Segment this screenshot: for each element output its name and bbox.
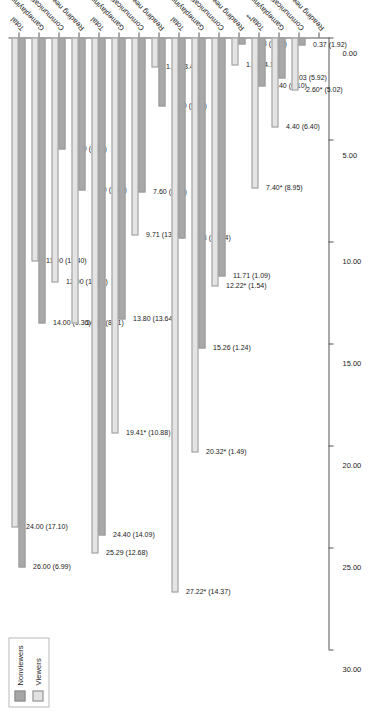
bar-value-label: 11.71 (1.09) xyxy=(233,271,270,279)
category-axis-tick xyxy=(118,32,119,37)
bar-nonviewers xyxy=(298,37,305,45)
bar-nonviewers xyxy=(198,37,205,348)
bar-value-label: 20.32* (1.49) xyxy=(205,447,245,455)
bar-viewers xyxy=(231,37,238,65)
bar-viewers xyxy=(271,37,278,127)
legend-swatch-icon xyxy=(14,690,25,701)
legend-label-viewers: Viewers xyxy=(33,658,42,685)
category-axis-tick xyxy=(98,32,99,37)
bar-nonviewers xyxy=(98,37,105,535)
bar-viewers xyxy=(11,37,18,527)
bar-viewers xyxy=(211,37,218,286)
bar-nonviewers xyxy=(158,37,165,106)
bar-viewers xyxy=(171,37,178,592)
value-axis-tick-label: 15.00 xyxy=(342,358,361,367)
value-axis-tick xyxy=(328,241,333,242)
bar-value-label: 25.29 (12.68) xyxy=(105,548,147,556)
category-axis-tick xyxy=(238,32,239,37)
category-axis-label: Total xyxy=(88,15,106,33)
value-axis-tick-label: 5.00 xyxy=(342,150,357,159)
bar-viewers xyxy=(191,37,198,452)
bar-nonviewers xyxy=(58,37,65,149)
bar-nonviewers xyxy=(78,37,85,190)
category-axis-tick xyxy=(78,32,79,37)
legend-swatch-icon xyxy=(32,690,43,701)
bar-viewers xyxy=(291,37,298,90)
category-axis-tick xyxy=(178,32,179,37)
bar-value-label: 19.41* (10.88) xyxy=(125,428,169,436)
bar-chart-figure: Nonviewers Viewers 30.0025.0020.0015.001… xyxy=(0,0,369,713)
bar-nonviewers xyxy=(258,37,265,86)
category-axis-tick xyxy=(38,32,39,37)
bar-nonviewers xyxy=(18,37,25,567)
legend-item-viewers: Viewers xyxy=(32,645,43,701)
bar-value-label: 24.00 (17.10) xyxy=(25,522,67,530)
category-axis-tick xyxy=(278,32,279,37)
value-axis-tick-label: 10.00 xyxy=(342,256,361,265)
value-axis-tick-label: 20.00 xyxy=(342,460,361,469)
value-axis-tick-label: 30.00 xyxy=(342,664,361,673)
value-axis-tick xyxy=(328,139,333,140)
bar-value-label: 26.00 (6.99) xyxy=(33,563,71,571)
bar-viewers xyxy=(51,37,58,282)
bar-value-label: 12.22* (1.54) xyxy=(225,282,265,290)
value-axis-tick-label: 25.00 xyxy=(342,562,361,571)
bar-viewers xyxy=(31,37,38,261)
category-axis-tick xyxy=(18,32,19,37)
bar-nonviewers xyxy=(118,37,125,319)
bar-nonviewers xyxy=(178,37,185,238)
value-axis-tick-label: 0.00 xyxy=(342,48,357,57)
bar-nonviewers xyxy=(218,37,225,276)
legend-item-nonviewers: Nonviewers xyxy=(14,645,25,701)
category-axis-label: Total xyxy=(168,15,186,33)
legend-label-nonviewers: Nonviewers xyxy=(15,645,24,685)
bar-value-label: 4.40 (6.40) xyxy=(285,122,319,130)
category-axis-tick xyxy=(58,32,59,37)
bar-nonviewers xyxy=(238,37,245,44)
category-axis-tick xyxy=(198,32,199,37)
bar-nonviewers xyxy=(278,37,285,78)
category-axis-tick xyxy=(138,32,139,37)
category-axis-tick xyxy=(298,32,299,37)
bar-nonviewers xyxy=(38,37,45,323)
bar-value-label: 13.80 (13.64) xyxy=(133,314,175,322)
bar-value-label: 7.40* (8.95) xyxy=(265,183,302,191)
category-axis-tick xyxy=(258,32,259,37)
chart-legend: Nonviewers Viewers xyxy=(8,637,49,707)
category-axis-tick xyxy=(318,32,319,37)
value-axis-tick xyxy=(328,37,333,38)
bar-value-label: 2.60* (5.02) xyxy=(305,85,342,93)
bar-viewers xyxy=(111,37,118,433)
bar-nonviewers xyxy=(138,37,145,192)
chart-stage: Nonviewers Viewers 30.0025.0020.0015.001… xyxy=(0,0,369,713)
value-axis-tick xyxy=(328,547,333,548)
value-axis-tick xyxy=(328,649,333,650)
bar-value-label: 15.26 (1.24) xyxy=(213,344,251,352)
category-axis-tick xyxy=(158,32,159,37)
bar-value-label: 0.37 (1.92) xyxy=(313,40,347,48)
bar-viewers xyxy=(91,37,98,553)
value-axis-tick xyxy=(328,445,333,446)
category-axis-label: Total xyxy=(8,15,26,33)
bar-viewers xyxy=(71,37,78,323)
bar-value-label: 24.40 (14.09) xyxy=(113,530,155,538)
bar-value-label: 27.22* (14.37) xyxy=(185,588,229,596)
plot-area: 30.0025.0020.0015.0010.005.000.00Total24… xyxy=(8,37,328,649)
bar-viewers xyxy=(251,37,258,188)
value-axis-tick xyxy=(328,343,333,344)
bar-viewers xyxy=(151,37,158,67)
bar-viewers xyxy=(131,37,138,235)
category-axis-tick xyxy=(218,32,219,37)
